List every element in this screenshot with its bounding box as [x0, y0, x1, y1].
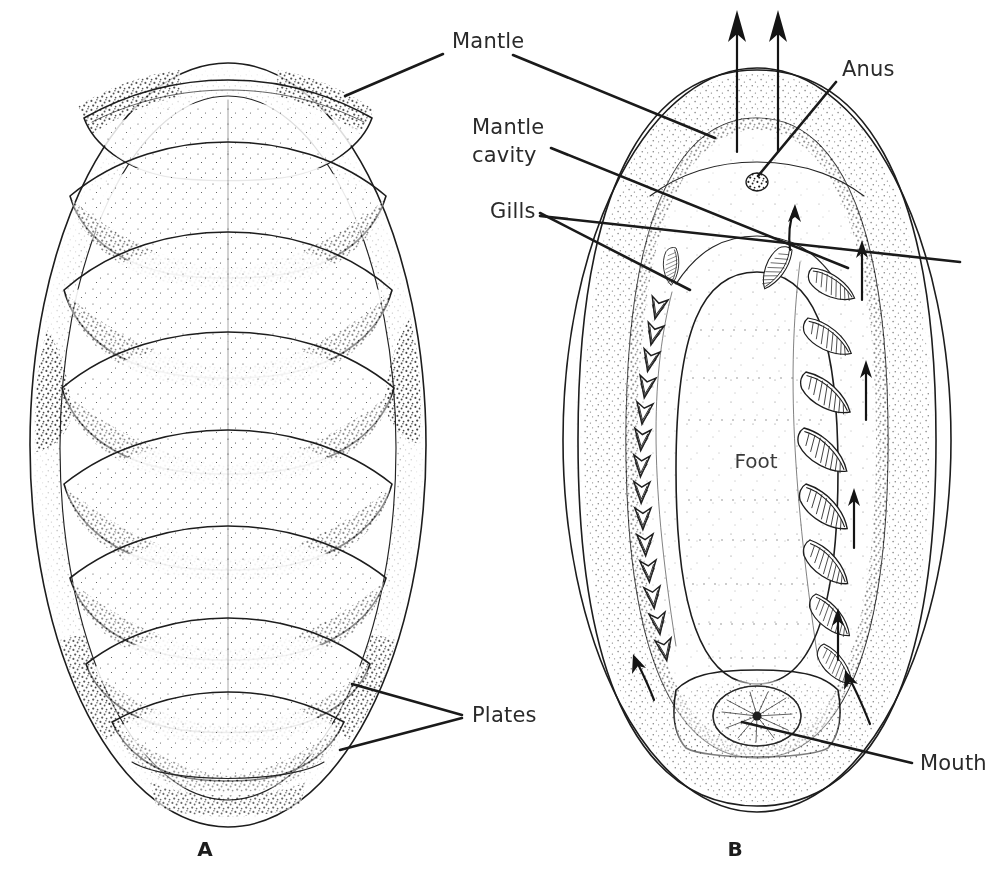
chiton-anatomy-figure: Mantle Mantle cavity Gills Anus Plates M…	[0, 0, 1004, 884]
label-mantle-cavity-line2: cavity	[472, 143, 537, 167]
panel-a-dorsal-view	[30, 63, 426, 827]
panel-letter-a: A	[197, 837, 213, 861]
label-mantle-cavity-line1: Mantle	[472, 115, 545, 139]
label-plates: Plates	[472, 703, 537, 727]
label-anus: Anus	[842, 57, 895, 81]
label-mantle: Mantle	[452, 29, 525, 53]
figure-container: Mantle Mantle cavity Gills Anus Plates M…	[0, 0, 1004, 884]
shell-plates-group	[62, 80, 394, 792]
label-foot: Foot	[734, 449, 777, 473]
label-mouth: Mouth	[920, 751, 987, 775]
label-gills: Gills	[490, 199, 536, 223]
panel-letter-b: B	[727, 837, 742, 861]
